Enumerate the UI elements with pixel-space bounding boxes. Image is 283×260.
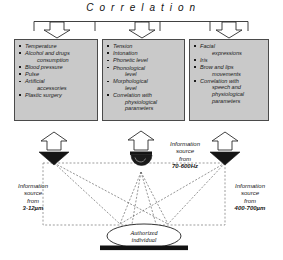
item-text: Alcohol and drugs	[25, 50, 70, 56]
item-text: Iris	[200, 57, 207, 63]
item-text: Temperature	[25, 43, 57, 49]
item-text: Phonological	[113, 65, 145, 71]
item-text: Pulse	[25, 71, 39, 77]
list-item: Blood pressure	[18, 64, 95, 71]
bullet-icon	[194, 59, 196, 61]
up-arrow-middle	[128, 131, 154, 150]
item-text-cont: level	[113, 71, 182, 78]
bullet-icon	[107, 94, 109, 96]
item-text-cont: physiological parameters	[113, 99, 182, 112]
label-line: Information	[2, 183, 64, 190]
physiological-panel: Temperature Alcohol and drugsconsumption…	[14, 39, 98, 121]
label-line: Information	[218, 183, 282, 190]
panel-feed-arrows	[44, 22, 242, 38]
infrared-sensor-label: Information source from 3-12µm	[2, 183, 64, 213]
sensor-range-value: 70-600Hz	[172, 163, 198, 169]
item-text: Phonetic level	[113, 57, 148, 63]
list-item: Pulse	[18, 71, 95, 78]
item-text-cont: expressions	[200, 50, 266, 57]
list-item: Correlation withphysiological parameters	[106, 92, 182, 112]
microphone-sensor-label: Information source from 70-600Hz	[152, 141, 218, 171]
sensor-range-value: 3-12µm	[23, 205, 44, 211]
label-line: source	[218, 190, 282, 197]
bullet-icon	[107, 45, 109, 47]
subject-line-1: Authorized	[107, 229, 181, 236]
bullet-icon	[19, 94, 21, 96]
item-text: Blood pressure	[25, 64, 63, 70]
item-text: Intonation	[113, 50, 138, 56]
feed-arrow-right	[216, 22, 242, 38]
list-item: Correlation withspeech and physiological…	[193, 78, 266, 104]
bullet-icon	[194, 66, 196, 68]
feed-arrow-left	[44, 22, 70, 38]
item-text: Brow and lips	[200, 64, 234, 70]
page-title: C o r r e l a t i o n	[0, 2, 283, 13]
bullet-icon	[19, 52, 21, 54]
label-line: from	[2, 198, 64, 205]
item-text: Correlation with	[200, 78, 239, 84]
visual-list: Facialexpressions Iris Brow and lipsmove…	[190, 40, 268, 104]
bullet-icon	[107, 81, 109, 83]
platform-bar	[100, 246, 188, 251]
microphone-dome-icon	[131, 155, 152, 166]
speech-panel: Tension Intonation Phonetic level Phonol…	[102, 39, 185, 121]
item-text: Correlation with	[113, 92, 152, 98]
item-text: Plastic surgery	[25, 92, 62, 98]
bullet-icon	[19, 81, 21, 83]
subject-line-2: individual	[107, 236, 181, 243]
bullet-icon	[107, 67, 109, 69]
item-text-cont: consumption	[25, 57, 95, 64]
bullet-icon	[19, 66, 21, 68]
item-text-cont: level	[113, 85, 182, 92]
up-arrow-left	[41, 132, 67, 150]
label-line: from	[152, 156, 218, 163]
list-item: Phonologicallevel	[106, 65, 182, 78]
bullet-icon	[19, 73, 21, 75]
label-line: source	[2, 190, 64, 197]
list-item: Plastic surgery	[18, 92, 95, 99]
label-line: source	[152, 148, 218, 155]
sensor-rays	[54, 163, 225, 224]
diagram-root: C o r r e l a t i o n Temperature Alcoho…	[0, 0, 283, 260]
visible-sensor-label: Information source from 400-700µm	[218, 183, 282, 213]
list-item: Facialexpressions	[193, 43, 266, 56]
item-text-cont: speech and physiological parameters	[200, 84, 266, 104]
bullet-icon	[107, 52, 109, 54]
bullet-icon	[194, 80, 196, 82]
bullet-icon	[107, 60, 109, 62]
list-item: Temperature	[18, 43, 95, 50]
speech-list: Tension Intonation Phonetic level Phonol…	[103, 40, 184, 112]
sensor-range-value: 400-700µm	[235, 205, 266, 211]
item-text-cont: movements	[200, 71, 266, 78]
item-text: Facial	[200, 43, 215, 49]
list-item: Intonation	[106, 50, 182, 57]
visual-panel: Facialexpressions Iris Brow and lipsmove…	[189, 39, 269, 121]
bullet-icon	[19, 45, 21, 47]
list-item: Iris	[193, 57, 266, 64]
list-item: Tension	[106, 43, 182, 50]
list-item: Artificialaccessories	[18, 78, 95, 91]
item-text: Morphological	[113, 78, 148, 84]
list-item: Alcohol and drugsconsumption	[18, 50, 95, 63]
list-item: Phonetic level	[106, 57, 182, 64]
item-text: Artificial	[25, 78, 45, 84]
label-line: Information	[152, 141, 218, 148]
physiological-list: Temperature Alcohol and drugsconsumption…	[15, 40, 97, 99]
bullet-icon	[194, 45, 196, 47]
list-item: Brow and lipsmovements	[193, 64, 266, 77]
label-line: from	[218, 198, 282, 205]
feed-arrow-middle	[129, 22, 155, 38]
item-text-cont: accessories	[25, 85, 95, 92]
authorized-individual-label: Authorized individual	[107, 229, 181, 243]
list-item: Morphologicallevel	[106, 78, 182, 91]
item-text: Tension	[113, 43, 132, 49]
microphone-mount-bar	[130, 152, 152, 155]
